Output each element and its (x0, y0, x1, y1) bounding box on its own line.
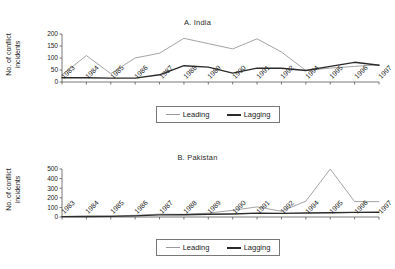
legend-label-leading: Leading (183, 110, 210, 119)
legend-entry-lagging-india: Lagging (227, 110, 271, 119)
y-tick-label: 300 (47, 185, 58, 192)
legend-entry-leading-india: Leading (166, 110, 210, 119)
y-tick-label: 50 (51, 66, 59, 73)
x-axis-tick-labels-india: 1983198419851986198719881989199019911992… (40, 75, 385, 107)
legend-label-lagging: Lagging (244, 110, 271, 119)
legend-label-leading: Leading (183, 243, 210, 252)
legend-line-leading-icon (166, 247, 180, 248)
legend-line-lagging-icon (227, 247, 241, 249)
y-tick-label: 150 (47, 42, 58, 49)
y-axis-label-india: No. of conflict incidents (5, 20, 22, 90)
y-tick-label: 500 (47, 165, 58, 172)
chart-panel-pakistan: B. Pakistan No. of conflict incidents 01… (0, 135, 395, 269)
panel-title-india: A. India (0, 18, 395, 27)
legend-label-lagging: Lagging (244, 243, 271, 252)
y-axis-label-pakistan: No. of conflict incidents (5, 155, 22, 225)
x-axis-tick-labels-pakistan: 1983198419851986198719881989199019911992… (40, 210, 385, 242)
legend-line-lagging-icon (227, 114, 241, 116)
legend-entry-lagging-pakistan: Lagging (227, 243, 271, 252)
y-tick-label: 200 (47, 194, 58, 201)
legend-pakistan: Leading Lagging (156, 239, 280, 256)
panel-title-pakistan: B. Pakistan (0, 153, 395, 162)
legend-india: Leading Lagging (156, 106, 280, 123)
figure-conflict-incidents: A. India No. of conflict incidents 05010… (0, 0, 395, 269)
y-tick-label: 200 (47, 30, 58, 37)
legend-entry-leading-pakistan: Leading (166, 243, 210, 252)
chart-panel-india: A. India No. of conflict incidents 05010… (0, 0, 395, 134)
y-tick-label: 400 (47, 175, 58, 182)
legend-line-leading-icon (166, 114, 180, 115)
y-tick-label: 100 (47, 54, 58, 61)
